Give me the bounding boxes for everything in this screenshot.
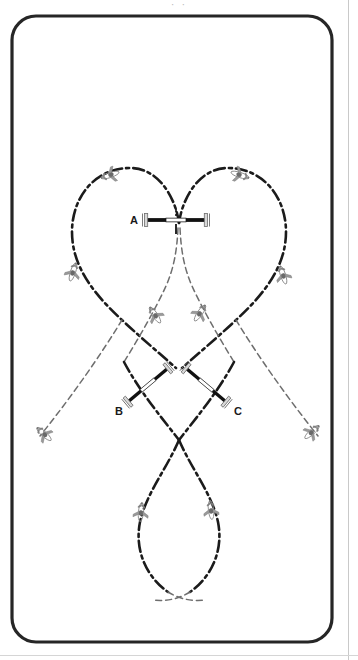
gate-label-b: B	[115, 406, 123, 417]
ac-mid-right	[273, 264, 293, 287]
formation-diagram	[0, 0, 358, 660]
ac-far-left	[32, 422, 56, 446]
flight-paths	[40, 168, 318, 601]
ac-bottom-right	[203, 500, 220, 521]
ac-far-right	[300, 420, 324, 444]
heart-left-lobe	[72, 168, 179, 368]
centre-descent-left	[124, 228, 178, 362]
diagonal-left-out	[40, 320, 122, 436]
centre-descent-right	[180, 228, 234, 362]
gate-label-c: C	[234, 406, 242, 417]
diagram-canvas: · ·	[0, 0, 358, 660]
gate-c	[180, 362, 232, 409]
heart-right-lobe	[179, 168, 286, 368]
page-bottom-rule	[0, 655, 358, 656]
page-right-edge	[348, 0, 349, 660]
ac-inner-right	[188, 301, 211, 325]
frame-border	[12, 16, 332, 642]
diagonal-right-out	[236, 320, 318, 436]
gate-label-a: A	[130, 215, 138, 226]
ac-mid-left	[63, 261, 83, 284]
